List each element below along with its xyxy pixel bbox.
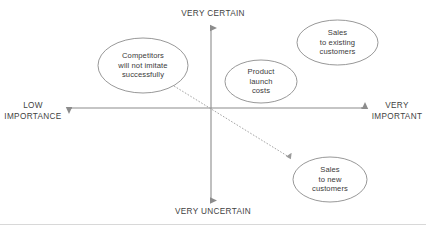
node-ellipse-sales-existing-customers: [297, 20, 378, 65]
axis-label-very-important-line2: IMPORTANT: [368, 111, 426, 122]
axis-label-very-uncertain: VERY UNCERTAIN: [0, 206, 426, 217]
axis-label-very-certain-line: VERY CERTAIN: [0, 8, 426, 19]
axis-label-very-important-line1: VERY: [368, 100, 426, 111]
axis-label-low-importance-line1: LOW: [2, 100, 64, 111]
node-ellipse-competitors: [98, 38, 188, 93]
axis-label-very-uncertain-line: VERY UNCERTAIN: [0, 206, 426, 217]
quadrant-matrix-diagram: VERY CERTAIN VERY UNCERTAIN LOW IMPORTAN…: [0, 0, 426, 227]
axis-label-low-importance: LOW IMPORTANCE: [2, 100, 64, 122]
axis-label-very-certain: VERY CERTAIN: [0, 8, 426, 19]
node-ellipse-product-launch-costs: [225, 60, 297, 103]
node-ellipse-sales-new-customers: [293, 157, 367, 202]
axis-label-low-importance-line2: IMPORTANCE: [2, 111, 64, 122]
axis-label-very-important: VERY IMPORTANT: [368, 100, 426, 122]
